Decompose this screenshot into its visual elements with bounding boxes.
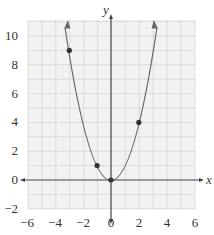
x-tick: −2 [76,215,90,230]
x-tick: 4 [164,215,171,230]
y-tick: 6 [12,86,19,101]
y-tick-labels: −2 0 2 4 6 8 10 [4,28,18,216]
y-tick: 10 [5,28,18,43]
y-axis-label: y [101,2,109,17]
y-tick: 8 [12,57,19,72]
point-neg3-9 [67,48,72,53]
x-tick-labels: −6 −4 −2 0 2 4 6 [20,215,199,230]
x-axis-label: x [205,172,212,187]
x-axis-right-arrow-icon [199,178,204,182]
point-neg1-1 [95,163,100,168]
point-2-4 [136,120,141,125]
x-tick: 6 [192,215,199,230]
y-axis-up-arrow-icon [109,14,113,19]
x-tick: −6 [20,215,34,230]
y-tick: −2 [4,201,18,216]
x-axis-left-arrow-icon [20,178,25,182]
y-tick: 2 [12,143,19,158]
y-tick: 0 [12,172,19,187]
x-tick: 0 [108,215,115,230]
point-0-0 [108,177,113,182]
parabola-graph: y x −2 0 2 4 6 8 10 −6 −4 −2 0 2 4 6 [0,0,214,235]
x-tick: −4 [48,215,62,230]
x-tick: 2 [136,215,143,230]
y-tick: 4 [12,114,19,129]
